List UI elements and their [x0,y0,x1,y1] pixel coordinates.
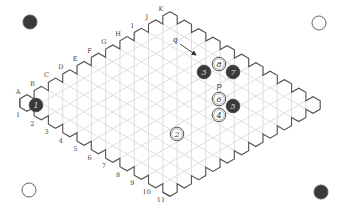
row-label-1: 1 [16,111,20,119]
hex-cell-H5[interactable] [177,71,191,88]
hex-cell-C3[interactable] [77,95,91,112]
hex-cell-B6[interactable] [106,129,120,146]
stone-5-black: 5 [226,99,240,113]
hex-cell-B7[interactable] [120,137,134,154]
hex-cell-J8[interactable] [249,80,263,97]
hex-cell-C8[interactable] [149,138,163,155]
hex-cell-E6[interactable] [149,104,163,121]
hex-cell-F7[interactable] [177,104,191,121]
stone-1-black: 1 [29,98,43,112]
stone-7-black: 7 [226,65,240,79]
hex-cell-I9[interactable] [249,96,263,113]
row-label-9: 9 [130,179,134,187]
hex-cell-E4[interactable] [120,87,134,104]
stone-8-white: 8 [212,57,226,71]
hex-cell-D7[interactable] [149,121,163,138]
hex-cell-C4[interactable] [91,104,105,121]
hex-cell-F4[interactable] [134,79,148,96]
row-label-6: 6 [87,154,91,162]
hex-cell-G2[interactable] [120,53,134,70]
column-label-C: C [44,71,49,79]
hex-cell-B2[interactable] [48,95,62,112]
annotation-p: p [216,81,221,90]
hex-cell-B4[interactable] [77,112,91,129]
hex-cell-G10[interactable] [234,121,248,138]
hex-cell-E5[interactable] [134,96,148,113]
hex-cell-G6[interactable] [177,87,191,104]
hex-cell-B5[interactable] [91,120,105,137]
hex-cell-C7[interactable] [134,129,148,146]
hex-cell-J3[interactable] [177,37,191,54]
hex-cell-I4[interactable] [177,54,191,71]
hex-cell-C9[interactable] [163,146,177,163]
hex-cell-F6[interactable] [163,96,177,113]
row-label-8: 8 [116,171,120,179]
hex-cell-J9[interactable] [263,88,277,105]
hex-cell-G7[interactable] [191,96,205,113]
hex-board-diagram: ABCDEFGHIJK1234567891011qp12345678 [0,0,348,213]
hex-cell-B3[interactable] [63,103,77,120]
stone-number: 3 [201,68,206,77]
stone-number: 6 [216,95,221,104]
hex-cell-E10[interactable] [206,138,220,155]
hex-cell-G5[interactable] [163,79,177,96]
hex-cell-E9[interactable] [191,130,205,147]
corner-marker-white [22,183,36,197]
hex-cell-F2[interactable] [106,62,120,79]
column-label-A: A [15,88,21,96]
hex-cell-F5[interactable] [149,87,163,104]
hex-cell-I3[interactable] [163,45,177,62]
hex-cell-D5[interactable] [120,104,134,121]
column-label-B: B [30,80,35,88]
hex-cell-H4[interactable] [163,62,177,79]
stone-3-black: 3 [197,65,211,79]
column-label-J: J [144,13,148,21]
column-label-D: D [58,63,63,71]
hex-cell-D10[interactable] [191,146,205,163]
hex-cell-F8[interactable] [191,113,205,130]
hex-cell-D2[interactable] [77,78,91,95]
row-label-3: 3 [45,128,49,136]
hex-cell-C5[interactable] [106,112,120,129]
column-label-K: K [159,5,164,13]
row-label-10: 10 [143,188,151,196]
annotation-q: q [172,35,177,44]
hex-cell-I2[interactable] [149,37,163,54]
column-label-F: F [87,47,92,55]
stone-number: 4 [215,111,221,120]
hex-cell-D3[interactable] [91,87,105,104]
hex-cell-D6[interactable] [134,112,148,129]
hex-cell-B10[interactable] [163,163,177,180]
hex-cell-H2[interactable] [134,45,148,62]
corner-marker-black [23,15,37,29]
hex-cell-J10[interactable] [277,97,291,114]
stone-number: 5 [230,102,235,111]
hex-cell-F9[interactable] [206,121,220,138]
column-label-G: G [101,38,106,46]
hex-cell-E3[interactable] [106,79,120,96]
hex-cell-B8[interactable] [134,146,148,163]
row-label-7: 7 [102,162,106,170]
hex-cell-H6[interactable] [191,79,205,96]
stone-number: 1 [33,101,38,110]
hex-cell-H3[interactable] [149,54,163,71]
hex-cell-C2[interactable] [63,87,77,104]
hex-cell-G4[interactable] [149,70,163,87]
column-label-I: I [131,22,134,30]
hex-cell-B9[interactable] [149,154,163,171]
hex-cell-I10[interactable] [263,105,277,122]
stone-number: 2 [173,130,179,139]
row-label-5: 5 [73,145,77,153]
hex-cell-G3[interactable] [134,62,148,79]
hex-cell-F3[interactable] [120,70,134,87]
hex-cell-H10[interactable] [249,113,263,130]
row-label-4: 4 [59,137,63,145]
hex-cell-C6[interactable] [120,121,134,138]
hex-cell-C10[interactable] [177,155,191,172]
hex-cell-E2[interactable] [91,70,105,87]
hex-cell-E7[interactable] [163,113,177,130]
stone-number: 8 [216,60,221,69]
hex-cell-D4[interactable] [106,95,120,112]
row-label-11: 11 [157,196,165,204]
hex-cell-F10[interactable] [220,130,234,147]
